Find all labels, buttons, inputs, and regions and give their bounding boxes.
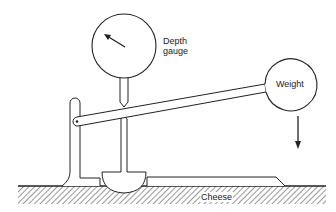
depth-gauge — [92, 14, 156, 78]
cheese-label: Cheese — [200, 192, 233, 202]
plunger-foot — [102, 115, 146, 193]
force-arrow — [295, 116, 301, 149]
pivot-pin — [76, 120, 79, 123]
ground — [18, 186, 326, 204]
apparatus-diagram — [0, 0, 336, 212]
weight-label: Weight — [276, 79, 304, 89]
depth-gauge-label-line2: gauge — [163, 46, 188, 56]
cheese-slab — [147, 177, 285, 186]
depth-gauge-label-line1: Depth — [163, 36, 188, 46]
gauge-stem — [120, 77, 128, 107]
pivot-post — [62, 98, 100, 186]
depth-gauge-label: Depth gauge — [163, 36, 188, 56]
lever-arm — [73, 84, 266, 126]
